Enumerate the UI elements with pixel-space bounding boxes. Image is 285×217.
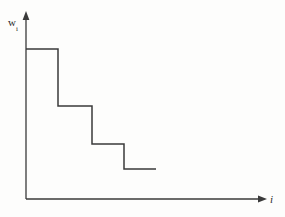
x-axis-label: i [270,194,273,205]
y-axis-label-subscript: i [16,25,18,33]
plot-background [0,0,285,217]
y-axis-label-main: w [8,16,16,28]
figure-root: wi i [0,0,285,217]
y-axis-label: wi [8,17,18,31]
step-function-plot [0,0,285,217]
